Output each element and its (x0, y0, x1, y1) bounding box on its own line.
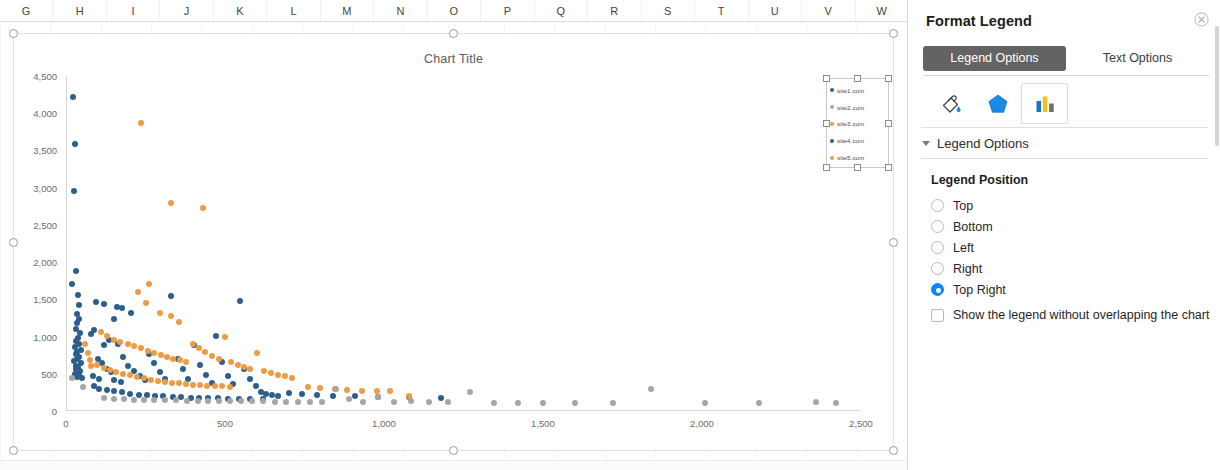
scatter-point (540, 400, 546, 406)
radio-button[interactable] (931, 241, 944, 254)
chart-resize-handle-middle-right[interactable] (889, 238, 898, 247)
column-header-h[interactable]: H (53, 0, 106, 21)
chart-resize-handle-top-right[interactable] (889, 29, 898, 38)
column-header-i[interactable]: I (107, 0, 160, 21)
scatter-point (155, 378, 161, 384)
radio-label: Right (953, 262, 982, 276)
y-axis-tick-label: 3,000 (33, 182, 57, 193)
legend-position-option-bottom[interactable]: Bottom (931, 216, 1220, 237)
chart-object[interactable]: Chart Title 05001,0001,5002,0002,5003,00… (13, 33, 894, 451)
pane-scrollbar[interactable] (1215, 26, 1219, 146)
column-header-n[interactable]: N (374, 0, 427, 21)
column-header-u[interactable]: U (749, 0, 802, 21)
legend-handle-top-left[interactable] (823, 75, 830, 82)
legend-options-section-header[interactable]: Legend Options (909, 128, 1220, 158)
scatter-point (359, 388, 365, 394)
column-header-l[interactable]: L (267, 0, 320, 21)
legend-position-option-right[interactable]: Right (931, 258, 1220, 279)
column-header-r[interactable]: R (588, 0, 641, 21)
column-header-v[interactable]: V (802, 0, 855, 21)
radio-button[interactable] (931, 220, 944, 233)
chart-legend[interactable]: site1.comsite2.comsite3.comsite4.comsite… (826, 78, 889, 168)
legend-handle-middle-right[interactable] (885, 120, 892, 127)
column-header-k[interactable]: K (214, 0, 267, 21)
column-header-q[interactable]: Q (535, 0, 588, 21)
scatter-point (833, 400, 839, 406)
scatter-point (330, 393, 336, 399)
legend-position-heading: Legend Position (931, 173, 1220, 187)
chart-title[interactable]: Chart Title (14, 52, 893, 66)
chart-resize-handle-middle-left[interactable] (9, 238, 18, 247)
scatter-point (138, 345, 144, 351)
scatter-point (87, 357, 93, 363)
legend-handle-top-right[interactable] (885, 75, 892, 82)
scatter-point (107, 367, 113, 373)
scatter-point (82, 341, 88, 347)
scatter-point (235, 362, 241, 368)
chart-resize-handle-top-left[interactable] (9, 29, 18, 38)
column-header-m[interactable]: M (321, 0, 374, 21)
scatter-point (145, 348, 151, 354)
scatter-point (169, 380, 175, 386)
legend-item[interactable]: site4.com (830, 132, 886, 149)
y-axis-tick-label: 0 (52, 406, 57, 417)
scatter-point (158, 352, 164, 358)
scatter-point (254, 350, 260, 356)
scatter-point (225, 373, 231, 379)
chart-resize-handle-top-center[interactable] (449, 29, 458, 38)
radio-button[interactable] (931, 262, 944, 275)
legend-handle-top-center[interactable] (854, 75, 861, 82)
chart-resize-handle-bottom-center[interactable] (449, 446, 458, 455)
legend-position-option-top-right[interactable]: Top Right (931, 279, 1220, 300)
scatter-point (283, 399, 289, 405)
pane-tabs: Legend Options Text Options (923, 46, 1209, 76)
x-axis-tick-label: 500 (217, 418, 233, 429)
chart-resize-handle-bottom-right[interactable] (889, 446, 898, 455)
effects-icon[interactable] (974, 83, 1021, 124)
scatter-point (216, 356, 222, 362)
column-header-o[interactable]: O (428, 0, 481, 21)
scatter-point (168, 313, 174, 319)
legend-handle-middle-left[interactable] (823, 120, 830, 127)
chart-resize-handle-bottom-left[interactable] (9, 446, 18, 455)
scatter-point (227, 384, 233, 390)
column-header-p[interactable]: P (481, 0, 534, 21)
legend-position-option-top[interactable]: Top (931, 195, 1220, 216)
scatter-point (195, 398, 201, 404)
legend-handle-bottom-left[interactable] (823, 164, 830, 171)
legend-handle-bottom-center[interactable] (854, 164, 861, 171)
scatter-point (162, 397, 168, 403)
scatter-point (213, 333, 219, 339)
radio-button[interactable] (931, 199, 944, 212)
legend-item[interactable]: site3.com (830, 116, 886, 133)
scatter-point (184, 398, 190, 404)
scatter-point (170, 356, 176, 362)
column-header-s[interactable]: S (642, 0, 695, 21)
size-and-properties-icon[interactable] (1021, 83, 1068, 124)
radio-button[interactable] (931, 283, 944, 296)
column-header-w[interactable]: W (856, 0, 908, 21)
tab-legend-options[interactable]: Legend Options (923, 46, 1066, 71)
x-axis-tick-label: 2,500 (849, 418, 873, 429)
column-header-t[interactable]: T (695, 0, 748, 21)
legend-item[interactable]: site2.com (830, 99, 886, 116)
scatter-point (467, 389, 473, 395)
show-legend-without-overlap-checkbox[interactable] (931, 309, 944, 322)
tab-text-options[interactable]: Text Options (1066, 46, 1209, 71)
plot-area[interactable]: 05001,0001,5002,0002,5003,0003,5004,0004… (66, 76, 861, 411)
scatter-point (572, 400, 578, 406)
x-axis-tick-label: 0 (63, 418, 68, 429)
scatter-point (247, 376, 253, 382)
scatter-point (333, 386, 339, 392)
legend-position-option-left[interactable]: Left (931, 237, 1220, 258)
legend-handle-bottom-right[interactable] (885, 164, 892, 171)
scatter-point (610, 400, 616, 406)
legend-item[interactable]: site1.com (830, 82, 886, 99)
column-header-g[interactable]: G (0, 0, 53, 21)
scatter-point (317, 385, 323, 391)
fill-and-line-icon[interactable] (927, 83, 974, 124)
column-header-j[interactable]: J (160, 0, 213, 21)
show-legend-without-overlap-row[interactable]: Show the legend without overlapping the … (931, 304, 1220, 326)
close-icon[interactable] (1194, 12, 1209, 27)
scatter-point (197, 382, 203, 388)
